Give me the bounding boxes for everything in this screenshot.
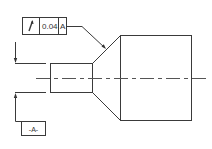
datum-reference: A <box>60 22 66 31</box>
drawing-canvas: 0.04 A -A- <box>0 0 212 149</box>
large-diameter <box>121 36 192 121</box>
upper-arrowhead-icon <box>14 58 17 63</box>
leader-line <box>67 27 107 50</box>
datum-leader <box>16 96 22 122</box>
tolerance-value: 0.04 <box>42 22 58 31</box>
datum-feature-symbol: -A- <box>22 122 46 136</box>
feature-control-frame: 0.04 A <box>23 18 67 35</box>
runout-arrow-icon <box>29 20 34 31</box>
cone-lower-edge <box>93 93 121 121</box>
datum-label: -A- <box>29 126 39 133</box>
datum-extension-lines <box>14 42 46 122</box>
